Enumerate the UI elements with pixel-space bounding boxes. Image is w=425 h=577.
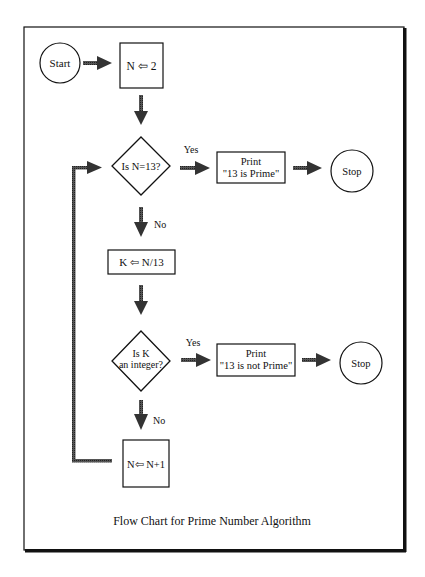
stop-node-2: Stop (340, 342, 382, 384)
print-not-prime-line1: Print (246, 348, 267, 359)
stop2-label: Stop (351, 358, 370, 369)
init-label: N ⇦ 2 (127, 60, 157, 72)
check-n-yes-label: Yes (184, 144, 199, 155)
print-not-prime-line2: "13 is not Prime" (220, 360, 292, 371)
flowchart-canvas: Start N ⇦ 2 Is N=13? Yes Print "13 is Pr… (0, 0, 425, 577)
check-k-line2: an integer? (119, 359, 164, 370)
check-k-line1: Is K (133, 348, 151, 359)
start-node: Start (40, 43, 80, 83)
check-n-no-label: No (154, 219, 166, 230)
check-n-label: Is N=13? (122, 161, 161, 172)
increment-label: N⇦ N+1 (127, 459, 165, 470)
print-prime-line2: "13 is Prime" (223, 168, 279, 179)
divide-node: K ⇦ N/13 (108, 250, 175, 274)
check-k-yes-label: Yes (186, 337, 201, 348)
init-node: N ⇦ 2 (120, 43, 163, 88)
print-prime-node: Print "13 is Prime" (217, 152, 285, 183)
stop1-label: Stop (342, 166, 361, 177)
outer-frame (24, 27, 407, 553)
print-prime-line1: Print (241, 156, 262, 167)
print-not-prime-node: Print "13 is not Prime" (217, 344, 295, 376)
check-k-no-label: No (153, 415, 165, 426)
divide-label: K ⇦ N/13 (119, 256, 164, 268)
diagram-caption: Flow Chart for Prime Number Algorithm (113, 514, 311, 528)
increment-node: N⇦ N+1 (123, 440, 169, 487)
start-label: Start (50, 57, 71, 69)
stop-node-1: Stop (331, 150, 373, 192)
